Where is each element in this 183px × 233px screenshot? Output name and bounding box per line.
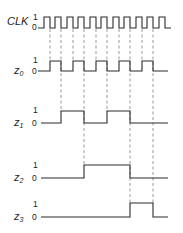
level-high-label: 1 [33, 105, 38, 115]
signal-label-clk: CLK [7, 15, 29, 27]
z2-waveform [41, 165, 168, 178]
z3-waveform [41, 203, 168, 217]
level-high-label: 1 [33, 160, 38, 170]
signal-z2: z2 1 0 [13, 160, 168, 184]
signal-label-z3: z3 [13, 210, 24, 223]
level-low-label: 0 [32, 173, 37, 183]
level-high-label: 1 [33, 12, 38, 22]
clk-waveform [38, 17, 171, 28]
z0-waveform [38, 61, 168, 71]
signal-z3: z3 1 0 [13, 199, 168, 223]
signal-z1: z1 1 0 [13, 105, 168, 129]
signal-label-z2: z2 [13, 171, 24, 184]
level-high-label: 1 [33, 199, 38, 209]
signal-z0: z0 1 0 [13, 55, 168, 77]
level-low-label: 0 [32, 212, 37, 222]
z1-waveform [41, 111, 168, 123]
level-high-label: 1 [33, 55, 38, 65]
level-low-label: 0 [32, 66, 37, 76]
level-low-label: 0 [32, 22, 37, 32]
level-low-label: 0 [32, 118, 37, 128]
signal-label-z1: z1 [13, 116, 24, 129]
signal-label-z0: z0 [13, 64, 24, 77]
timing-diagram: CLK 1 0 z0 1 0 z1 1 0 z2 1 0 z3 1 0 [0, 0, 183, 233]
signal-clk: CLK 1 0 [7, 12, 171, 32]
